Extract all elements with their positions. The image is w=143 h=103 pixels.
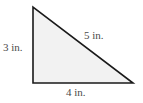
triangle-polygon [33, 7, 133, 83]
right-triangle-diagram: 3 in. 5 in. 4 in. [0, 0, 143, 103]
hypotenuse-label: 5 in. [84, 30, 104, 41]
left-side-label: 3 in. [3, 42, 23, 53]
bottom-side-label: 4 in. [66, 87, 86, 98]
